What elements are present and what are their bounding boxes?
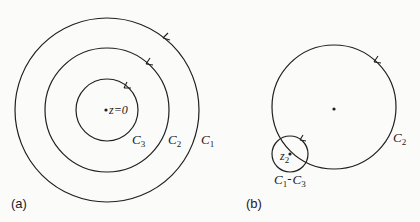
label-c1: C1: [201, 132, 214, 149]
center-point-b: [332, 107, 335, 110]
arrow-c1-icon: [163, 33, 170, 40]
label-c3: C3: [132, 132, 146, 149]
origin-label: z=0: [108, 103, 128, 117]
panel-b: z2 C2 C1-C3 (b): [246, 45, 406, 211]
arrow-small-icon: [300, 135, 306, 141]
panel-a: z=0 C3 C2 C1 (a): [11, 18, 214, 211]
label-c2-b: C2: [393, 130, 406, 147]
contour-c2-large: [272, 45, 396, 169]
label-c1-minus-c3: C1-C3: [274, 171, 306, 189]
contour-diagram: z=0 C3 C2 C1 (a) z2 C2 C1-C3 (b): [0, 0, 420, 222]
label-z2: z2: [279, 149, 289, 165]
label-c2: C2: [168, 132, 181, 149]
origin-point: [104, 108, 107, 111]
arrow-c2-b-icon: [374, 56, 381, 63]
arrow-c2-icon: [146, 58, 153, 65]
panel-a-label: (a): [11, 196, 27, 211]
diagram-canvas: z=0 C3 C2 C1 (a) z2 C2 C1-C3 (b): [0, 0, 420, 222]
panel-b-label: (b): [246, 196, 262, 211]
